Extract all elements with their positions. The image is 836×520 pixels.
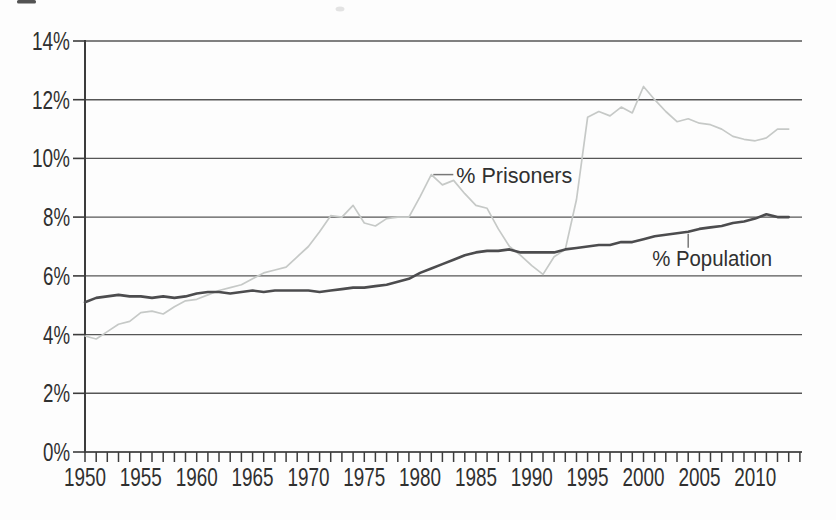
- x-tick-label: 2010: [734, 462, 776, 492]
- x-tick-label: 1990: [511, 462, 553, 492]
- y-tick-label: 8%: [43, 202, 70, 232]
- x-tick-label: 1970: [287, 462, 329, 492]
- x-tick-label: 1955: [120, 462, 162, 492]
- y-tick-label: 10%: [32, 143, 70, 173]
- x-tick-label: 1965: [232, 462, 274, 492]
- scanned-chart-figure: 0%2%4%6%8%10%12%14%195019551960196519701…: [0, 0, 836, 520]
- scan-artifact-smudge: [17, 0, 36, 4]
- x-tick-label: 2005: [678, 462, 720, 492]
- annotation-prisoners: % Prisoners: [433, 163, 572, 188]
- y-tick-label: 2%: [43, 378, 70, 408]
- x-tick-label: 1950: [64, 462, 106, 492]
- prisoners-series-label: % Prisoners: [456, 163, 572, 188]
- scan-artifact-dot: [336, 7, 345, 12]
- y-tick-label: 6%: [43, 261, 70, 291]
- annotation-population: % Population: [652, 234, 772, 271]
- prisoners-line: [85, 87, 789, 340]
- x-tick-label: 1985: [455, 462, 497, 492]
- x-tick-label: 1995: [567, 462, 609, 492]
- data-series: [85, 87, 789, 340]
- y-tick-label: 4%: [43, 320, 70, 350]
- y-tick-label: 12%: [32, 85, 70, 115]
- population-series-label: % Population: [652, 246, 772, 271]
- x-tick-label: 1960: [176, 462, 218, 492]
- prisoners-vs-population-line-chart: 0%2%4%6%8%10%12%14%195019551960196519701…: [0, 0, 836, 520]
- x-tick-label: 2000: [623, 462, 665, 492]
- y-tick-label: 14%: [32, 26, 70, 56]
- x-tick-label: 1975: [343, 462, 385, 492]
- x-tick-label: 1980: [399, 462, 441, 492]
